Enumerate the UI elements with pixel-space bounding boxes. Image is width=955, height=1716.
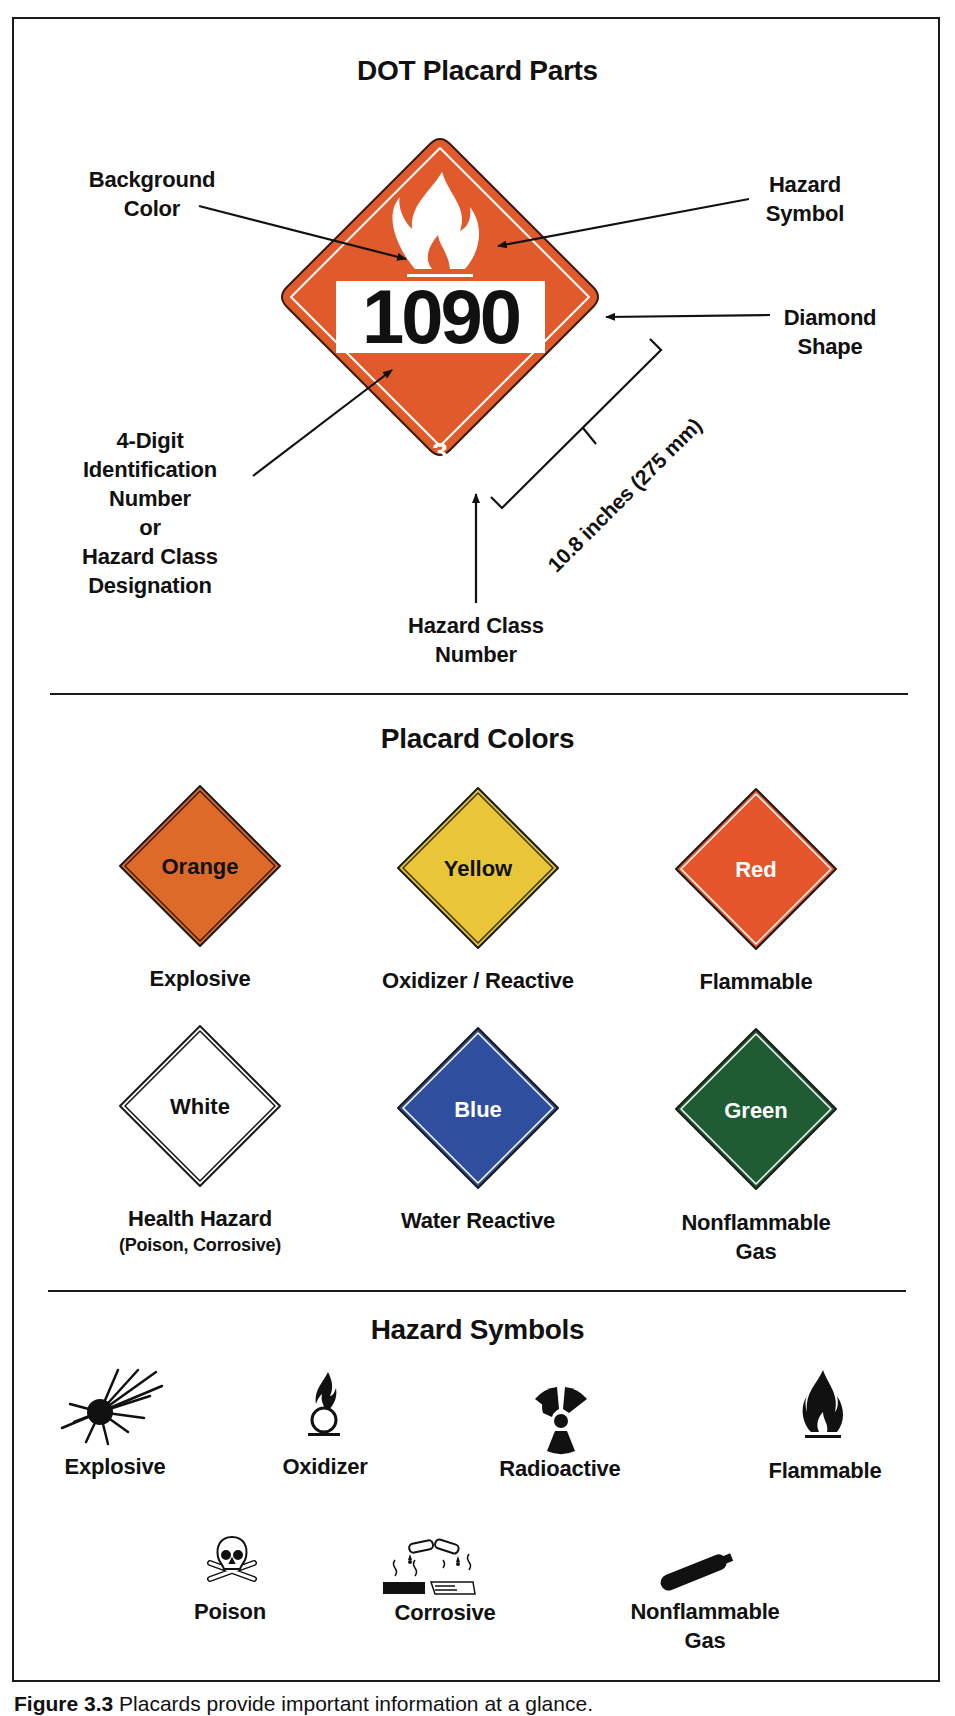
color-meaning-blue: Water Reactive [358,1206,598,1235]
symbol-label-poison: Poison [160,1597,300,1626]
symbol-label-oxidizer: Oxidizer [250,1452,400,1481]
color-label-blue: Blue [398,1097,558,1123]
poison-icon [204,1535,260,1585]
color-meaning-green: Nonflammable Gas [646,1208,866,1266]
figure-caption: Figure 3.3 Placards provide important in… [14,1692,593,1716]
color-label-yellow: Yellow [398,856,558,882]
color-meaning-red: Flammable [656,967,856,996]
color-label-orange: Orange [120,854,280,880]
symbol-label-flammable: Flammable [745,1456,905,1485]
symbol-label-corrosive: Corrosive [370,1598,520,1627]
oxidizer-icon [306,1370,346,1440]
symbol-label-nonflammable-gas: Nonflammable Gas [600,1597,810,1655]
color-meaning-yellow: Oxidizer / Reactive [338,966,618,995]
symbol-label-radioactive: Radioactive [480,1454,640,1483]
color-label-red: Red [676,857,836,883]
section-divider-2 [48,1290,906,1292]
color-meaning-white: Health Hazard (Poison, Corrosive) [80,1204,320,1257]
figure-number: Figure 3.3 [14,1692,113,1715]
gas-cylinder-icon [652,1550,742,1590]
color-label-green: Green [676,1098,836,1124]
symbol-label-explosive: Explosive [40,1452,190,1481]
corrosive-icon [383,1538,483,1598]
figure-caption-text: Placards provide important information a… [119,1692,593,1715]
explosive-icon [58,1368,168,1448]
flammable-icon [799,1368,849,1440]
section-title-symbols: Hazard Symbols [0,1314,955,1346]
color-meaning-orange: Explosive [100,964,300,993]
radioactive-icon [526,1386,596,1456]
color-label-white: White [120,1094,280,1120]
